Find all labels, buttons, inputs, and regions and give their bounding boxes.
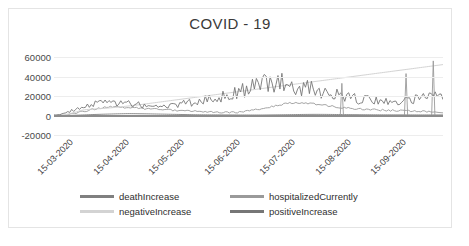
- x-axis-tick: 15-09-2020: [369, 137, 409, 177]
- x-axis-tick: 15-05-2020: [147, 137, 187, 177]
- x-axis-tick: 15-08-2020: [313, 137, 353, 177]
- x-axis-tick: 15-07-2020: [258, 137, 298, 177]
- chart-title: COVID - 19: [9, 15, 451, 32]
- y-axis-tick: 40000: [25, 71, 51, 82]
- series-peak-marker: [404, 74, 407, 116]
- chart-frame: COVID - 19 6000040000200000-20000 15-03-…: [8, 8, 452, 228]
- plot-area: [54, 57, 443, 135]
- legend-item-deathIncrease[interactable]: deathIncrease: [80, 191, 230, 202]
- chart-legend: deathIncreasehospitalizedCurrentlynegati…: [9, 191, 451, 217]
- gridline: [54, 57, 443, 58]
- y-axis-labels: 6000040000200000-20000: [9, 57, 51, 135]
- zero-axis-line: [54, 115, 443, 117]
- x-axis-tick: 15-06-2020: [202, 137, 242, 177]
- series-line-positiveIncrease: [54, 73, 443, 115]
- y-axis-tick: 0: [46, 110, 51, 121]
- plot-area-wrapper: [54, 57, 443, 135]
- gridline: [54, 77, 443, 78]
- legend-item-positiveIncrease[interactable]: positiveIncrease: [230, 206, 380, 217]
- y-axis-tick: 60000: [25, 52, 51, 63]
- legend-label: negativeIncrease: [119, 206, 191, 217]
- x-axis-tick: 15-03-2020: [35, 137, 75, 177]
- legend-swatch-icon: [80, 195, 114, 198]
- x-axis-tick: 15-04-2020: [91, 137, 131, 177]
- y-axis-tick: 20000: [25, 91, 51, 102]
- legend-item-hospitalizedCurrently[interactable]: hospitalizedCurrently: [230, 191, 380, 202]
- gridline: [54, 96, 443, 97]
- legend-swatch-icon: [230, 210, 264, 213]
- series-peak-marker: [432, 61, 435, 116]
- legend-item-negativeIncrease[interactable]: negativeIncrease: [80, 206, 230, 217]
- legend-label: deathIncrease: [119, 191, 179, 202]
- series-peak-marker: [340, 83, 343, 115]
- series-line-negativeIncrease: [54, 65, 443, 116]
- legend-swatch-icon: [230, 195, 264, 198]
- legend-swatch-icon: [80, 210, 114, 213]
- x-axis-labels: 15-03-202015-04-202015-05-202015-06-2020…: [54, 135, 443, 183]
- legend-label: positiveIncrease: [269, 206, 338, 217]
- figure-caption: [0, 232, 469, 246]
- y-axis-tick: -20000: [21, 130, 51, 141]
- legend-label: hospitalizedCurrently: [269, 191, 358, 202]
